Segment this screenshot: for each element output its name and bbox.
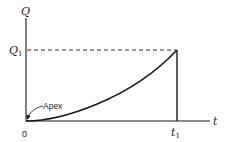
t1-label-subscript: 1 bbox=[175, 132, 179, 140]
apex-label: Apex bbox=[43, 101, 63, 111]
apex-arrow bbox=[28, 106, 44, 119]
q1-label-subscript: 1 bbox=[18, 50, 22, 58]
q1-label-main: Q bbox=[9, 44, 18, 57]
q1-label: Q1 bbox=[9, 44, 23, 58]
x-axis-label: t bbox=[213, 115, 218, 128]
diagram-canvas: Q Q1 t t1 0 Apex bbox=[0, 0, 228, 142]
t1-label: t1 bbox=[171, 126, 180, 140]
origin-label: 0 bbox=[22, 129, 27, 139]
y-axis-label: Q bbox=[21, 5, 30, 18]
